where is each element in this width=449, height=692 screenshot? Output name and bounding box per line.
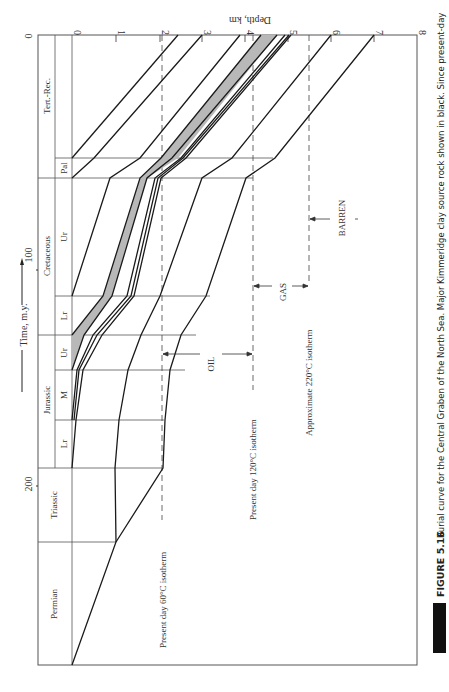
time-axis-label: Time, m.y. [18, 304, 29, 347]
time-tick-200: 200 [23, 477, 34, 492]
zone-barren-label: BARREN [337, 199, 347, 236]
period-jurassic: Jurassic [42, 386, 52, 415]
burial-curve-chart: 0 100 200 Time, m.y. 0 1 2 3 4 5 6 7 8 D… [0, 0, 449, 692]
burial-curves [72, 35, 374, 665]
epoch-m-jurassic: M [59, 391, 69, 399]
depth-tick-0: 0 [72, 30, 83, 35]
isotherm-60c-label: Present day 60°C isotherm [158, 552, 168, 648]
depth-axis-label: Depth, km [229, 15, 271, 26]
epoch-lr-cretaceous: Lr [59, 312, 69, 321]
depth-tick-4: 4 [245, 30, 256, 35]
period-triassic: Triassic [49, 491, 59, 519]
zone-oil-label: OIL [206, 357, 216, 372]
depth-tick-3: 3 [202, 30, 213, 35]
depth-tick-1: 1 [116, 30, 127, 35]
isotherm-220c-label: Approximate 220°C isotherm [304, 329, 314, 436]
time-tick-100: 100 [23, 248, 34, 263]
depth-tick-6: 6 [331, 30, 342, 35]
isotherm-120c-label: Present day 120°C isotherm [248, 419, 258, 520]
period-tert-rec: Tert.-Rec. [42, 78, 52, 114]
isotherm-lines [162, 35, 309, 520]
epoch-lr-jurassic: Lr [59, 440, 69, 449]
depth-tick-5: 5 [288, 30, 299, 35]
depth-tick-8: 8 [417, 30, 428, 35]
period-permian: Permian [49, 589, 59, 619]
epoch-ur-cretaceous: Ur [59, 232, 69, 242]
epoch-pal: Pal [59, 162, 69, 174]
depth-tick-2: 2 [160, 30, 171, 35]
figure-caption: Burial curve for the Central Graben of t… [436, 13, 446, 538]
figure-number: FIGURE 5.16 [435, 531, 446, 597]
plot-frame [38, 35, 417, 665]
period-cretaceous: Cretaceous [42, 236, 52, 276]
time-tick-0: 0 [23, 34, 34, 39]
figure-caption-block [433, 603, 446, 653]
depth-ticks [116, 35, 374, 42]
epoch-ur-jurassic: Ur [59, 348, 69, 358]
depth-tick-7: 7 [374, 30, 385, 35]
zone-gas-label: GAS [278, 283, 288, 301]
